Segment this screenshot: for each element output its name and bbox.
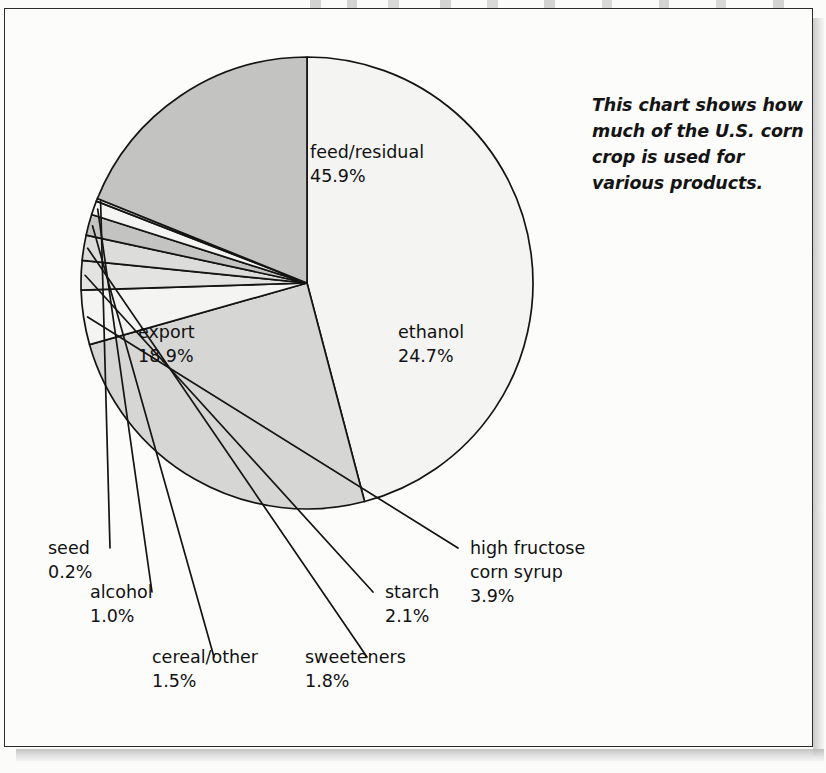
slice-percent-text: 1.5%	[152, 671, 196, 691]
slice-name-text: seed	[48, 538, 90, 558]
slice-name-text: starch	[385, 582, 439, 602]
slice-name-text: ethanol	[398, 322, 464, 342]
slice-name-text: high fructose	[470, 538, 585, 558]
slice-name-text: alcohol	[90, 582, 153, 602]
slice-name-text: export	[138, 322, 195, 342]
slice-name-text: corn syrup	[470, 562, 563, 582]
slice-label-starch: starch2.1%	[385, 582, 439, 626]
scanned-page: feed/residual45.9%ethanol24.7%high fruct…	[0, 0, 826, 773]
slice-name-text: feed/residual	[310, 142, 424, 162]
slice-label-seed: seed0.2%	[48, 538, 92, 582]
chart-caption: This chart shows how much of the U.S. co…	[592, 92, 810, 196]
slice-percent-text: 18.9%	[138, 346, 194, 366]
slice-label-high-fructose-corn-syrup: high fructosecorn syrup3.9%	[470, 538, 585, 606]
slice-percent-text: 3.9%	[470, 586, 514, 606]
slice-percent-text: 45.9%	[310, 166, 366, 186]
slice-name-text: sweeteners	[305, 647, 406, 667]
slice-percent-text: 0.2%	[48, 562, 92, 582]
slice-percent-text: 24.7%	[398, 346, 454, 366]
slice-percent-text: 1.8%	[305, 671, 349, 691]
pie-slices	[81, 57, 533, 509]
slice-label-sweeteners: sweeteners1.8%	[305, 647, 406, 691]
slice-name-text: cereal/other	[152, 647, 259, 667]
slice-percent-text: 1.0%	[90, 606, 134, 626]
slice-label-alcohol: alcohol1.0%	[90, 582, 153, 626]
slice-percent-text: 2.1%	[385, 606, 429, 626]
slice-label-cereal-other: cereal/other1.5%	[152, 647, 259, 691]
